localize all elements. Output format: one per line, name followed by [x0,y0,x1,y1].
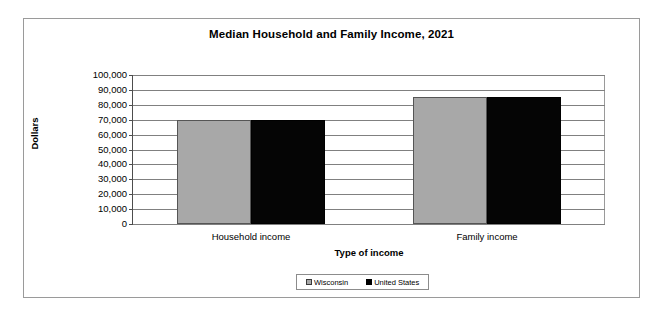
x-axis-tick-label: Household income [181,231,321,242]
gridline [133,90,605,91]
y-axis-tick [129,164,133,165]
y-axis-tick-label: 0 [57,219,127,229]
legend-label: United States [374,278,419,287]
y-axis-tick-label: 100,000 [57,70,127,80]
bar-united-states [487,97,561,224]
legend-swatch-icon [366,279,372,285]
y-axis-tick [129,224,133,225]
chart-legend: WisconsinUnited States [296,274,429,290]
y-axis-tick-label: 50,000 [57,145,127,155]
chart-title: Median Household and Family Income, 2021 [0,28,663,40]
y-axis-tick [129,120,133,121]
plot-area [133,75,605,224]
x-axis-title: Type of income [133,247,605,258]
bar-united-states [251,120,325,224]
legend-swatch-icon [306,279,312,285]
y-axis-tick-label: 70,000 [57,115,127,125]
bar-wisconsin [177,120,251,224]
y-axis-title: Dollars [29,94,40,174]
y-axis-tick-label: 80,000 [57,100,127,110]
y-axis-tick-label: 20,000 [57,189,127,199]
bar-wisconsin [413,97,487,224]
y-axis-tick [129,209,133,210]
y-axis-tick-label: 30,000 [57,174,127,184]
y-axis-tick [129,135,133,136]
x-axis-tick-label: Family income [417,231,557,242]
y-axis-tick [129,105,133,106]
y-axis-tick [129,150,133,151]
legend-item: Wisconsin [306,278,348,287]
y-axis-tick-labels: 100,00090,00080,00070,00060,00050,00040,… [55,75,127,225]
legend-item: United States [366,278,419,287]
y-axis-tick [129,179,133,180]
y-axis-tick-label: 60,000 [57,130,127,140]
y-axis-tick [129,90,133,91]
legend-label: Wisconsin [314,278,348,287]
y-axis-tick-label: 90,000 [57,85,127,95]
y-axis-tick [129,75,133,76]
chart-figure: Median Household and Family Income, 2021… [0,0,663,313]
gridline [133,75,605,76]
y-axis-tick-label: 10,000 [57,204,127,214]
y-axis-tick [129,194,133,195]
gridline [133,224,605,225]
y-axis-tick-label: 40,000 [57,159,127,169]
